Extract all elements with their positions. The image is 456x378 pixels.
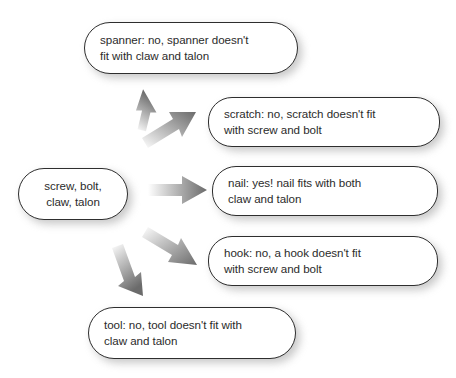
diagram-canvas: screw, bolt, claw, talon spanner: no, sp… (0, 0, 456, 378)
arrow-right-icon (148, 176, 207, 204)
arrow-layer (0, 0, 456, 378)
arrow-down-shallow-icon (142, 227, 197, 265)
arrow-up-shallow-icon (142, 112, 196, 148)
arrow-down-steep-icon (112, 244, 143, 296)
